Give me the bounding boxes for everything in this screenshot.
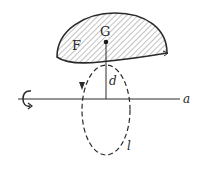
- label-centroid-g: G: [100, 24, 110, 39]
- label-path-l: l: [127, 139, 131, 153]
- centroid-g-dot: [104, 40, 109, 45]
- rotation-arrow-icon: [23, 91, 32, 109]
- diagram-canvas: G F d a l: [0, 0, 208, 175]
- path-direction-arrow-icon: [79, 82, 85, 90]
- label-axis-a: a: [183, 92, 190, 106]
- label-figure-f: F: [72, 38, 81, 53]
- label-distance-d: d: [109, 74, 117, 88]
